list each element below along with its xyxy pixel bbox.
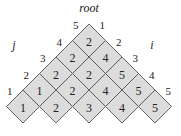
i-index-label: 5 bbox=[166, 85, 172, 97]
cell-value: 1 bbox=[20, 101, 26, 115]
i-index-label: 4 bbox=[149, 69, 155, 81]
i-axis-label: i bbox=[150, 38, 153, 52]
cell-value: 4 bbox=[119, 101, 125, 115]
cell-value: 4 bbox=[103, 51, 109, 65]
j-index-label: 3 bbox=[40, 52, 46, 64]
root-table-diagram: root j i 224225124512345 5432112345 bbox=[0, 0, 181, 136]
cell-value: 5 bbox=[152, 101, 158, 115]
cell-value: 3 bbox=[86, 101, 92, 115]
cell-value: 5 bbox=[119, 68, 125, 82]
cell-value: 2 bbox=[70, 84, 76, 98]
i-index-label: 1 bbox=[100, 19, 106, 31]
cell-value: 2 bbox=[53, 68, 59, 82]
j-index-label: 1 bbox=[7, 85, 13, 97]
cell-value: 2 bbox=[70, 51, 76, 65]
cell-value: 2 bbox=[86, 35, 92, 49]
cell-grid: 224225124512345 bbox=[7, 24, 172, 123]
j-axis-label: j bbox=[10, 38, 16, 52]
cell-value: 4 bbox=[103, 84, 109, 98]
cell-value: 2 bbox=[53, 101, 59, 115]
i-index-label: 2 bbox=[116, 36, 122, 48]
cell-value: 2 bbox=[86, 68, 92, 82]
i-index-label: 3 bbox=[133, 52, 139, 64]
cell-value: 1 bbox=[37, 84, 43, 98]
cell-value: 5 bbox=[136, 84, 142, 98]
root-title: root bbox=[79, 1, 99, 15]
j-index-label: 4 bbox=[57, 36, 63, 48]
j-index-label: 5 bbox=[73, 19, 79, 31]
j-index-label: 2 bbox=[24, 69, 30, 81]
